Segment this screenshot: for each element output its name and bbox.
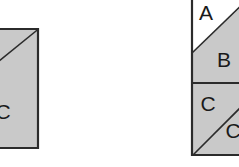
- geometry-figure-canvas: C A B C C: [0, 0, 239, 167]
- left-rectangle-body: [0, 29, 39, 149]
- left-region-label-c: C: [0, 100, 11, 123]
- right-rectangle-group: A B C C: [191, 0, 239, 156]
- geometry-figure-svg: C A B C C: [0, 0, 239, 167]
- left-rectangle-group: C: [0, 28, 39, 149]
- region-label-b: B: [217, 48, 231, 71]
- region-label-c-right: C: [225, 119, 239, 142]
- region-label-c-left: C: [200, 92, 215, 115]
- region-label-a: A: [199, 1, 213, 24]
